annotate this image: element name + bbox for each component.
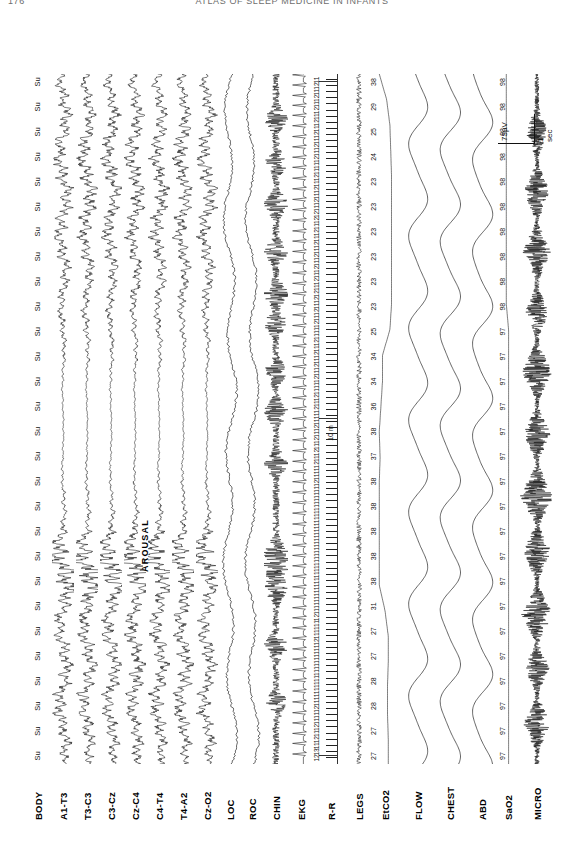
rr-tick — [326, 531, 338, 532]
rr-tick — [326, 507, 338, 508]
rr-tick — [326, 409, 338, 410]
channel-row-body: BODYSuSuSuSuSuSuSuSuSuSuSuSuSuSuSuSuSuSu… — [28, 20, 48, 820]
rr-value: 12 — [313, 290, 320, 297]
rr-tick — [326, 152, 338, 153]
etco2-value: 28 — [370, 677, 377, 685]
rr-value: 11 — [313, 168, 320, 175]
rr-value: 11 — [313, 327, 320, 334]
rr-value: 12 — [313, 95, 320, 102]
channel-label-body: BODY — [33, 768, 44, 820]
rr-value: 11 — [313, 559, 320, 566]
rr-tick — [326, 726, 338, 727]
rr-value: 12 — [313, 461, 320, 468]
sao2-value: 97 — [499, 702, 506, 710]
sao2-value: 97 — [499, 527, 506, 535]
rr-tick — [326, 415, 338, 416]
etco2-value: 38 — [370, 552, 377, 560]
body-position-marker: Su — [33, 327, 42, 336]
rr-value: 11 — [313, 260, 320, 267]
rr-tick — [326, 323, 338, 324]
rr-value: 12 — [313, 144, 320, 151]
rr-value: 11 — [313, 608, 320, 615]
rr-tick — [326, 177, 338, 178]
channel-label-cz-c4: Cz-C4 — [130, 768, 141, 820]
etco2-value: 27 — [370, 752, 377, 760]
rr-tick — [326, 195, 338, 196]
sao2-value: 97 — [499, 353, 506, 361]
body-position-marker: Su — [33, 402, 42, 411]
channel-label-legs: LEGS — [354, 768, 365, 820]
rr-tick — [326, 745, 338, 746]
rr-tick — [326, 604, 338, 605]
rr-value: 11 — [313, 584, 320, 591]
sao2-value: 98 — [499, 103, 506, 111]
rr-value: 12 — [313, 174, 320, 181]
rr-value: 12 — [313, 119, 320, 126]
sao2-value: 97 — [499, 677, 506, 685]
channel-label-c4-t4: C4-T4 — [154, 768, 165, 820]
rr-value: 11 — [313, 138, 320, 145]
body-position-marker: Su — [33, 477, 42, 486]
rr-tick — [326, 293, 338, 294]
rr-tick — [326, 110, 338, 111]
rr-value: 12 — [313, 449, 320, 456]
waveform-cz-o2 — [196, 74, 218, 764]
rr-value: 12 — [313, 107, 320, 114]
body-position-marker: Su — [33, 452, 42, 461]
body-position-marker: Su — [33, 152, 42, 161]
rr-value: 11 — [313, 571, 320, 578]
rr-tick — [326, 537, 338, 538]
rr-tick — [326, 702, 338, 703]
rr-value: 11 — [313, 455, 320, 462]
sao2-value: 98 — [499, 178, 506, 186]
sao2-value: 97 — [499, 577, 506, 585]
rr-tick — [326, 268, 338, 269]
body-position-marker: Su — [33, 252, 42, 261]
rr-tick — [326, 708, 338, 709]
rr-tick — [326, 519, 338, 520]
rr-tick — [326, 549, 338, 550]
sao2-value: 97 — [499, 478, 506, 486]
etco2-value: 28 — [370, 702, 377, 710]
waveform-t3-c3 — [76, 74, 98, 764]
sao2-value: 98 — [499, 278, 506, 286]
sao2-value: 97 — [499, 552, 506, 560]
etco2-value: 34 — [370, 378, 377, 386]
channel-row-a1-t3: A1-T3 — [52, 20, 74, 820]
waveform-ekg — [291, 74, 311, 764]
rr-tick — [326, 372, 338, 373]
rr-tick — [326, 696, 338, 697]
rr-value: 12 — [313, 736, 320, 743]
rr-tick — [326, 238, 338, 239]
rr-value: 11 — [313, 235, 320, 242]
rr-tick — [326, 739, 338, 740]
rr-value: 12 — [313, 278, 320, 285]
rr-tick — [326, 116, 338, 117]
rr-value: 11 — [313, 431, 320, 438]
rr-value: 12 — [313, 406, 320, 413]
channel-label-t3-c3: T3-C3 — [82, 768, 93, 820]
body-position-marker: Su — [33, 602, 42, 611]
rr-value: 11 — [313, 113, 320, 120]
rr-value: 11 — [313, 303, 320, 310]
rr-tick — [326, 641, 338, 642]
rr-value: 12 — [313, 480, 320, 487]
rr-value: 11 — [313, 529, 320, 536]
rr-tick — [326, 500, 338, 501]
body-position-marker: Su — [33, 677, 42, 686]
rr-tick — [326, 574, 338, 575]
rr-value: 11 — [313, 345, 320, 352]
rr-cap-marker — [319, 755, 337, 756]
rr-tick — [326, 140, 338, 141]
channel-row-chin: CHIN — [264, 20, 288, 820]
rr-value: 11 — [313, 248, 320, 255]
rr-tick — [326, 336, 338, 337]
rr-value: 11 — [313, 101, 320, 108]
rr-value: 11 — [313, 718, 320, 725]
rr-tick — [326, 354, 338, 355]
rr-value: 11 — [313, 700, 320, 707]
body-position-marker: Su — [33, 552, 42, 561]
rr-value: 12 — [313, 131, 320, 138]
channel-row-t3-c3: T3-C3 — [76, 20, 98, 820]
channel-label-cz-o2: Cz-O2 — [202, 768, 213, 820]
